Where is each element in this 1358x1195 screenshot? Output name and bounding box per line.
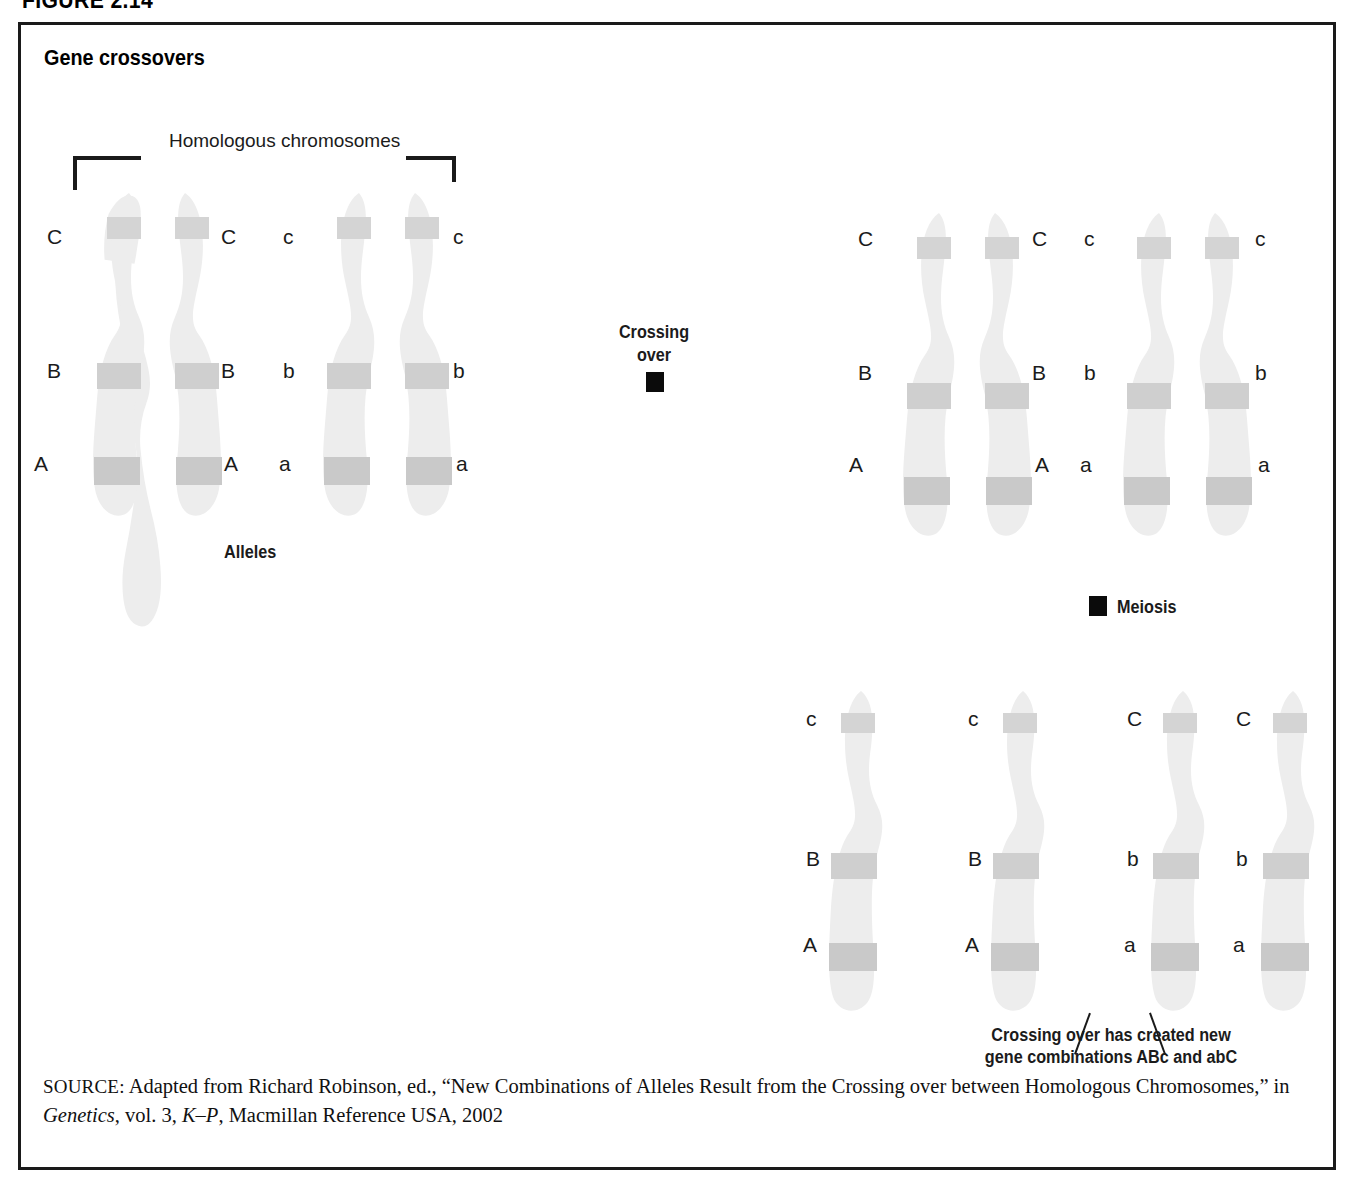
allele-s3c4-a: a bbox=[1233, 933, 1245, 957]
allele-s1p1-left-C: C bbox=[47, 225, 62, 249]
meiosis-arrow-marker bbox=[1089, 596, 1107, 616]
allele-s2p2-left-c: c bbox=[1084, 227, 1095, 251]
stage1-pair-CBA bbox=[81, 185, 271, 525]
label-meiosis: Meiosis bbox=[1117, 597, 1176, 618]
source-italic-volume: K–P bbox=[182, 1104, 218, 1126]
label-crossing-over-line1: Crossing bbox=[609, 322, 699, 343]
stage3-chromatid-1 bbox=[821, 685, 899, 1015]
allele-s1p1-left-A: A bbox=[34, 452, 48, 476]
bracket-left-horizontal bbox=[73, 156, 141, 160]
allele-s2p1-left-C: C bbox=[858, 227, 873, 251]
allele-s3c4-b: b bbox=[1236, 847, 1248, 871]
caption-result-line1: Crossing over has created new bbox=[922, 1025, 1300, 1046]
stage2-pair-cba bbox=[1111, 205, 1301, 545]
label-crossing-over-line2: over bbox=[609, 345, 699, 366]
stage1-pair-cba bbox=[311, 185, 501, 525]
allele-s2p2-right-a: a bbox=[1258, 453, 1270, 477]
figure-number: FIGURE 2.14 bbox=[22, 0, 153, 14]
source-note: SOURCE: Adapted from Richard Robinson, e… bbox=[43, 1072, 1305, 1130]
crossing-over-arrow-marker bbox=[646, 372, 664, 392]
allele-s1p2-right-a: a bbox=[456, 452, 468, 476]
allele-s2p2-right-b: b bbox=[1255, 361, 1267, 385]
bracket-right-horizontal bbox=[406, 156, 456, 160]
allele-s2p1-right-B: B bbox=[1032, 361, 1046, 385]
allele-s3c1-B: B bbox=[806, 847, 820, 871]
stage3-chromatid-3 bbox=[1143, 685, 1221, 1015]
caption-result-line2: gene combinations ABc and abC bbox=[922, 1047, 1300, 1068]
source-text-2: , vol. 3, bbox=[115, 1104, 182, 1126]
allele-s3c3-a: a bbox=[1124, 933, 1136, 957]
allele-s1p2-left-b: b bbox=[283, 359, 295, 383]
source-prefix: SOURCE: bbox=[43, 1076, 125, 1097]
stage3-chromatid-4 bbox=[1253, 685, 1331, 1015]
allele-s1p2-left-c: c bbox=[283, 225, 294, 249]
label-alleles: Alleles bbox=[224, 542, 276, 563]
allele-s3c3-b: b bbox=[1127, 847, 1139, 871]
stage2-pair-CBA bbox=[891, 205, 1081, 545]
allele-s2p2-left-b: b bbox=[1084, 361, 1096, 385]
allele-s3c2-A: A bbox=[965, 933, 979, 957]
source-text-3: , Macmillan Reference USA, 2002 bbox=[218, 1104, 503, 1126]
bracket-right-vertical bbox=[452, 156, 456, 182]
allele-s2p1-left-B: B bbox=[858, 361, 872, 385]
allele-s1p1-right-C: C bbox=[221, 225, 236, 249]
bracket-left-vertical bbox=[73, 156, 77, 190]
allele-s2p1-right-A: A bbox=[1035, 453, 1049, 477]
source-italic-title: Genetics bbox=[43, 1104, 115, 1126]
source-text-1: Adapted from Richard Robinson, ed., “New… bbox=[125, 1075, 1290, 1097]
allele-s1p2-right-c: c bbox=[453, 225, 464, 249]
allele-s1p1-right-B: B bbox=[221, 359, 235, 383]
allele-s3c1-A: A bbox=[803, 933, 817, 957]
allele-s2p2-left-a: a bbox=[1080, 453, 1092, 477]
label-homologous-chromosomes: Homologous chromosomes bbox=[169, 130, 400, 152]
allele-s1p2-right-b: b bbox=[453, 359, 465, 383]
figure-frame: Gene crossovers bbox=[18, 22, 1336, 1170]
allele-s3c4-C: C bbox=[1236, 707, 1251, 731]
allele-s3c1-c: c bbox=[806, 707, 817, 731]
allele-s1p1-right-A: A bbox=[224, 452, 238, 476]
allele-s2p1-right-C: C bbox=[1032, 227, 1047, 251]
allele-s1p1-left-B: B bbox=[47, 359, 61, 383]
allele-s3c2-c: c bbox=[968, 707, 979, 731]
stage3-chromatid-2 bbox=[983, 685, 1061, 1015]
allele-s2p1-left-A: A bbox=[849, 453, 863, 477]
allele-s2p2-right-c: c bbox=[1255, 227, 1266, 251]
allele-s3c3-C: C bbox=[1127, 707, 1142, 731]
allele-s1p2-left-a: a bbox=[279, 452, 291, 476]
allele-s3c2-B: B bbox=[968, 847, 982, 871]
